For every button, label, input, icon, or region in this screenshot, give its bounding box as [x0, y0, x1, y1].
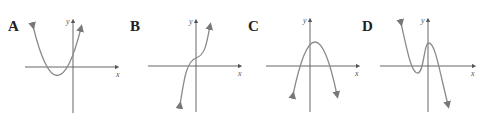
curve [33, 26, 81, 76]
graph-d-plot: y x [362, 0, 487, 120]
y-axis-label: y [65, 17, 70, 26]
curve [401, 23, 448, 105]
curve [180, 26, 210, 105]
x-axis-label: x [115, 70, 120, 79]
x-axis-label: x [470, 69, 475, 78]
graph-c-plot: y x [242, 0, 362, 120]
y-axis-label: y [420, 16, 425, 25]
graph-panel-b: B y x [122, 0, 242, 120]
y-axis-label: y [302, 16, 307, 25]
curve [293, 42, 337, 95]
graph-a-plot: y x [0, 0, 122, 120]
graph-b-plot: y x [122, 0, 242, 120]
graph-panel-c: C y x [242, 0, 362, 120]
graph-panel-a: A y x [0, 0, 122, 120]
graph-panel-d: D y x [362, 0, 487, 120]
y-axis-label: y [188, 17, 193, 26]
x-axis-label: x [354, 69, 359, 78]
